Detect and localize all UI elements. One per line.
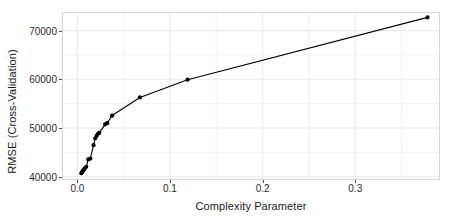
chart-container: RMSE (Cross-Validation) 4000050000600007… (0, 0, 458, 223)
y-axis-title: RMSE (Cross-Validation) (0, 0, 24, 223)
data-point (138, 95, 142, 99)
data-line (81, 17, 427, 173)
data-point (88, 157, 92, 161)
plot-panel (62, 12, 440, 180)
x-tick-label: 0.3 (348, 183, 362, 194)
grid-major-lines (63, 13, 439, 179)
data-point (84, 165, 88, 169)
data-point (97, 131, 101, 135)
data-point (185, 78, 189, 82)
y-tick-label: 50000 (29, 123, 62, 134)
data-point (105, 121, 109, 125)
x-tick-label: 0.2 (256, 183, 270, 194)
data-point-markers (79, 15, 429, 175)
plot-svg (63, 13, 439, 179)
y-tick-label: 40000 (29, 171, 62, 182)
y-tick-label: 60000 (29, 74, 62, 85)
x-tick-mark (355, 180, 356, 183)
y-tick-label: 70000 (29, 25, 62, 36)
x-axis-title: Complexity Parameter (62, 200, 440, 212)
x-tick-mark (263, 180, 264, 183)
x-tick-mark (77, 180, 78, 183)
data-point (91, 143, 95, 147)
data-point (425, 15, 429, 19)
x-tick-mark (170, 180, 171, 183)
x-tick-label: 0.1 (163, 183, 177, 194)
data-point (110, 113, 114, 117)
grid-minor-lines (63, 13, 439, 179)
x-tick-label: 0.0 (70, 183, 84, 194)
